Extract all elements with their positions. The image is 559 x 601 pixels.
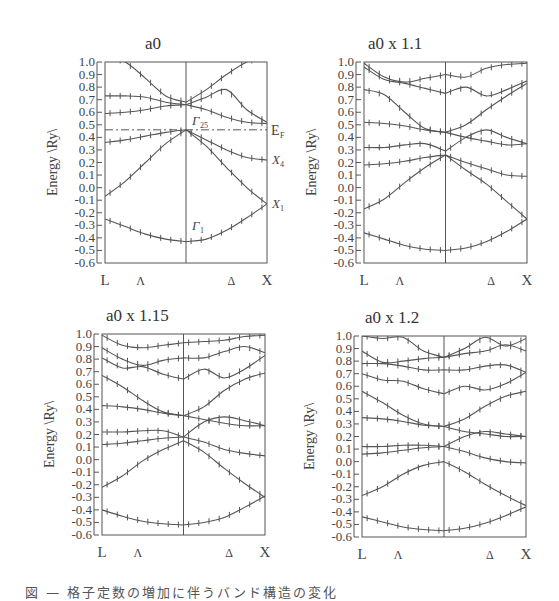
svg-text:Δ: Δ: [486, 548, 494, 562]
svg-text:L: L: [357, 546, 366, 562]
svg-text:Energy \Ry\: Energy \Ry\: [302, 403, 317, 470]
figure-caption: 図 — 格子定数の増加に伴うバンド構造の変化: [25, 582, 338, 601]
svg-text:-0.6: -0.6: [331, 529, 352, 544]
svg-text:Λ: Λ: [394, 548, 403, 562]
svg-text:X: X: [521, 546, 532, 562]
